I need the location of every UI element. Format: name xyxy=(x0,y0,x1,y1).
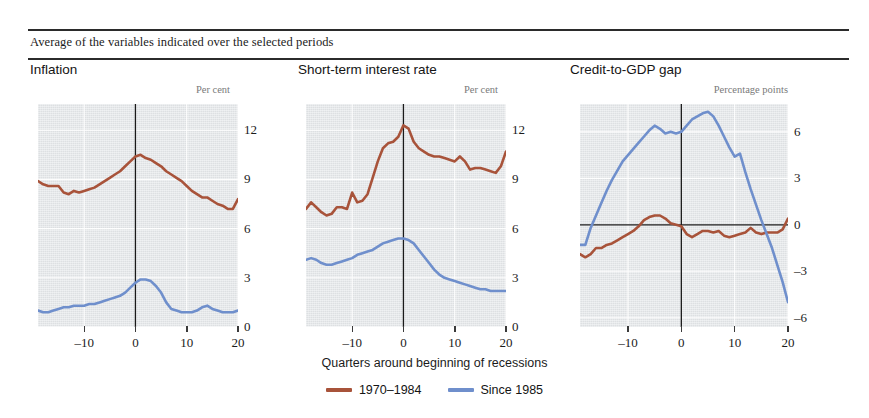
xtick-label: –10 xyxy=(74,335,94,351)
x-axis-caption: Quarters around beginning of recessions xyxy=(0,356,869,370)
xtick-label: 20 xyxy=(782,335,795,351)
ytick-label: 6 xyxy=(794,124,801,140)
panel-unit-credit-to-gdp-gap: Percentage points xyxy=(714,84,788,95)
ytick-label: 3 xyxy=(794,170,801,186)
xtick-mark xyxy=(403,326,404,332)
xtick-mark xyxy=(237,326,238,332)
xtick-mark xyxy=(627,326,628,332)
chart-subtitle: Average of the variables indicated over … xyxy=(30,35,334,50)
ytick-label: 3 xyxy=(512,270,519,286)
panel-short-term-interest-rate: Short-term interest rate Per cent 036912… xyxy=(296,62,536,352)
ytick-label: 12 xyxy=(244,122,257,138)
ytick-label: 0 xyxy=(244,319,251,335)
xtick-mark xyxy=(505,326,506,332)
xtick-mark xyxy=(135,326,136,332)
legend-label: 1970–1984 xyxy=(359,383,422,397)
xtick-label: 0 xyxy=(678,335,685,351)
ytick-label: 12 xyxy=(512,122,525,138)
chart-panels: Inflation Per cent 036912–1001020 Short-… xyxy=(0,62,869,352)
ytick-label: 9 xyxy=(244,171,251,187)
plot-svg-inflation xyxy=(38,104,238,327)
xtick-label: –10 xyxy=(618,335,638,351)
xtick-label: 10 xyxy=(448,335,461,351)
xtick-mark xyxy=(186,326,187,332)
plot-area-inflation xyxy=(38,104,238,327)
xtick-mark xyxy=(734,326,735,332)
panel-title-credit-to-gdp-gap: Credit-to-GDP gap xyxy=(570,62,682,77)
panel-unit-short-term-interest-rate: Per cent xyxy=(464,84,498,95)
plot-area-short-term-interest-rate xyxy=(306,104,506,327)
legend-swatch-icon xyxy=(326,388,352,392)
xtick-label: 0 xyxy=(132,335,139,351)
panel-credit-to-gdp-gap: Credit-to-GDP gap Percentage points –6–3… xyxy=(568,62,818,352)
ytick-label: –6 xyxy=(794,310,807,326)
xtick-mark xyxy=(681,326,682,332)
header-rule-second xyxy=(28,58,849,60)
ytick-label: 6 xyxy=(244,221,251,237)
ytick-label: 0 xyxy=(512,319,519,335)
xtick-label: 10 xyxy=(728,335,741,351)
ytick-label: 9 xyxy=(512,171,519,187)
legend-item-since-1985: Since 1985 xyxy=(448,383,544,397)
xtick-mark xyxy=(84,326,85,332)
plot-area-credit-to-gdp-gap xyxy=(580,104,788,327)
legend-item-1970-1984: 1970–1984 xyxy=(326,383,422,397)
ytick-label: 0 xyxy=(794,217,801,233)
xtick-label: 20 xyxy=(232,335,245,351)
panel-unit-inflation: Per cent xyxy=(196,84,230,95)
xtick-label: 20 xyxy=(500,335,513,351)
xtick-mark xyxy=(454,326,455,332)
header-rule-top xyxy=(28,29,849,31)
ytick-label: 6 xyxy=(512,221,519,237)
legend-swatch-icon xyxy=(448,388,474,392)
xtick-label: 10 xyxy=(180,335,193,351)
chart-legend: 1970–1984 Since 1985 xyxy=(0,383,869,397)
panel-inflation: Inflation Per cent 036912–1001020 xyxy=(28,62,268,352)
panel-title-short-term-interest-rate: Short-term interest rate xyxy=(298,62,437,77)
xtick-label: –10 xyxy=(342,335,362,351)
plot-svg-short-term-interest-rate xyxy=(306,104,506,327)
ytick-label: –3 xyxy=(794,263,807,279)
xtick-mark xyxy=(352,326,353,332)
xtick-label: 0 xyxy=(400,335,407,351)
xtick-mark xyxy=(787,326,788,332)
plot-svg-credit-to-gdp-gap xyxy=(580,104,788,327)
ytick-label: 3 xyxy=(244,270,251,286)
panel-title-inflation: Inflation xyxy=(30,62,77,77)
legend-label: Since 1985 xyxy=(481,383,544,397)
